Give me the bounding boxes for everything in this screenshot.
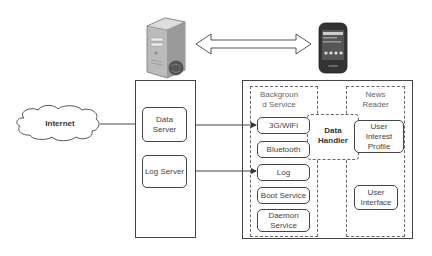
server-icon (143, 16, 193, 80)
wifi-node: 3G/WiFi (257, 117, 310, 134)
daemon-service-label-line1: Daemon (268, 211, 298, 221)
data-server-label-line2: Server (153, 125, 177, 135)
data-handler-label-line1: Data (312, 126, 354, 136)
bluetooth-label: Bluetooth (267, 145, 301, 155)
log-server-label: Log Server (145, 167, 184, 177)
data-server-label-line1: Data (153, 115, 177, 125)
user-interest-profile-node: User Interest Profile (354, 120, 404, 153)
data-server-node: Data Server (142, 107, 187, 142)
boot-service-label: Boot Service (261, 191, 306, 201)
internet-label: Internet (30, 119, 90, 129)
log-node: Log (257, 164, 310, 181)
boot-service-node: Boot Service (257, 187, 310, 204)
smartphone-icon (318, 22, 348, 74)
user-interest-profile-line1: User (366, 122, 393, 132)
daemon-service-node: Daemon Service (257, 209, 310, 232)
data-handler-label: Data Handler (312, 126, 354, 146)
bluetooth-node: Bluetooth (257, 141, 310, 158)
news-reader-title: News Reader (348, 90, 403, 110)
daemon-service-label-line2: Service (268, 221, 298, 231)
background-service-title-line2: d Service (252, 100, 306, 110)
data-handler-label-line2: Handler (312, 136, 354, 146)
background-service-title-line1: Backgroun (252, 90, 306, 100)
user-interface-node: User Interface (354, 185, 398, 210)
user-interface-line2: Interface (360, 198, 391, 208)
user-interest-profile-line3: Profile (366, 142, 393, 152)
user-interface-line1: User (360, 188, 391, 198)
wifi-label: 3G/WiFi (269, 121, 298, 131)
log-server-node: Log Server (142, 155, 187, 188)
double-arrow-icon (196, 34, 311, 54)
news-reader-title-line1: News (348, 90, 403, 100)
news-reader-title-line2: Reader (348, 100, 403, 110)
user-interest-profile-line2: Interest (366, 132, 393, 142)
background-service-title: Backgroun d Service (252, 90, 306, 110)
log-label: Log (277, 168, 290, 178)
